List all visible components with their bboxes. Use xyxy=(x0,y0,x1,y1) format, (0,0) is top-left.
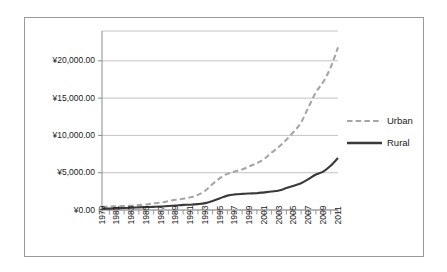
y-tick-label: ¥0.00 xyxy=(25,206,95,215)
x-tick-label: 1979 xyxy=(97,206,106,225)
y-tick-label: ¥10,000.00 xyxy=(25,131,95,140)
x-tick-label: 1985 xyxy=(141,206,150,225)
x-tick-label: 2011 xyxy=(333,206,342,224)
x-tick-label: 2005 xyxy=(289,206,298,225)
y-tick-marks-group xyxy=(98,61,102,210)
chart-figure: ¥20,000.00¥15,000.00¥10,000.00¥5,000.00¥… xyxy=(0,0,447,272)
chart-frame: ¥20,000.00¥15,000.00¥10,000.00¥5,000.00¥… xyxy=(24,17,424,257)
x-tick-label: 1989 xyxy=(171,206,180,225)
x-tick-label: 1999 xyxy=(245,206,254,225)
x-tick-label: 1987 xyxy=(156,206,165,225)
legend-marks-group xyxy=(347,121,382,143)
x-tick-label: 2003 xyxy=(274,206,283,225)
x-tick-label: 1993 xyxy=(200,206,209,225)
x-tick-label: 2001 xyxy=(259,206,268,225)
legend-label-rural: Rural xyxy=(387,138,410,148)
x-tick-label: 1981 xyxy=(112,206,121,225)
x-tick-label: 1997 xyxy=(230,206,239,225)
x-tick-label: 1991 xyxy=(186,206,195,225)
series-line-rural xyxy=(102,158,338,209)
x-tick-label: 1983 xyxy=(127,206,136,225)
y-tick-label: ¥20,000.00 xyxy=(25,56,95,65)
x-tick-label: 2007 xyxy=(304,206,313,225)
x-tick-label: 2009 xyxy=(318,206,327,225)
x-tick-label: 1995 xyxy=(215,206,224,225)
legend-label-urban: Urban xyxy=(387,116,413,126)
y-tick-label: ¥5,000.00 xyxy=(25,168,95,177)
data-series-group xyxy=(102,47,338,208)
y-tick-label: ¥15,000.00 xyxy=(25,94,95,103)
